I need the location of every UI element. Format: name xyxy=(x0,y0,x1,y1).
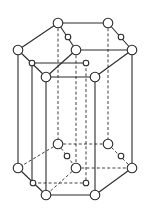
small-atom xyxy=(118,153,124,159)
bottom-hidden-edge xyxy=(46,168,76,195)
small-atom xyxy=(30,180,36,186)
corner-atom xyxy=(90,190,100,200)
corner-atom xyxy=(53,139,63,149)
corner-atom xyxy=(41,190,51,200)
small-atom xyxy=(65,34,71,40)
corner-atom xyxy=(90,72,100,82)
small-atom xyxy=(83,180,89,186)
corner-atom xyxy=(71,45,81,55)
corner-atom xyxy=(13,163,23,173)
small-atom xyxy=(118,34,124,40)
small-atom xyxy=(64,153,70,159)
corner-atom xyxy=(103,139,113,149)
hexagonal-prism-lattice xyxy=(0,0,150,215)
corner-atom xyxy=(13,45,23,55)
corner-atom xyxy=(127,45,137,55)
small-atom xyxy=(83,60,89,66)
small-atom xyxy=(29,60,35,66)
corner-atom xyxy=(53,18,63,28)
corner-atom xyxy=(71,163,81,173)
corner-atom xyxy=(103,18,113,28)
bottom-edge xyxy=(95,168,132,195)
top-edge xyxy=(95,50,132,77)
bottom-hidden-edge xyxy=(18,144,58,168)
corner-atom xyxy=(127,163,137,173)
corner-atom xyxy=(41,72,51,82)
hcp-crystal-diagram xyxy=(0,0,150,215)
top-edge xyxy=(18,23,58,50)
